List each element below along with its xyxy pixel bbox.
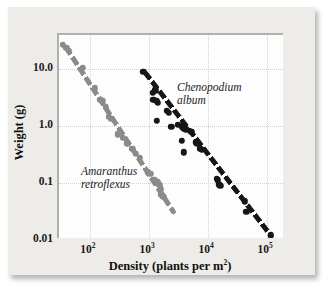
plot-area bbox=[59, 35, 283, 238]
data-point bbox=[165, 110, 171, 116]
series-label-chenopodium: Chenopodium album bbox=[177, 81, 242, 106]
gridline-vertical bbox=[90, 35, 91, 238]
data-point bbox=[168, 123, 174, 129]
gridline-vertical bbox=[208, 35, 209, 238]
y-axis-title: Weight (g) bbox=[12, 63, 27, 203]
data-point bbox=[154, 117, 160, 123]
plot-panel: Chenopodium album Amaranthus retroflexus bbox=[57, 33, 283, 238]
y-tick-label: 10.0 bbox=[33, 61, 53, 73]
data-point bbox=[79, 65, 85, 71]
y-tick-label: 0.1 bbox=[39, 175, 53, 187]
data-point bbox=[181, 149, 187, 155]
x-tick-label: 103 bbox=[139, 243, 154, 255]
y-tick-label: 0.01 bbox=[33, 232, 53, 244]
x-axis-ticks: 102103104105 bbox=[57, 243, 283, 259]
data-point bbox=[217, 182, 223, 188]
x-tick-label: 102 bbox=[80, 243, 95, 255]
gridline-horizontal bbox=[59, 69, 283, 70]
data-point bbox=[243, 209, 249, 215]
y-tick-label: 1.0 bbox=[39, 118, 53, 130]
gridline-vertical bbox=[267, 35, 268, 238]
figure-root: Chenopodium album Amaranthus retroflexus… bbox=[0, 0, 329, 293]
series-label-amaranthus: Amaranthus retroflexus bbox=[81, 165, 137, 190]
x-axis-title: Density (plants per m2) bbox=[57, 259, 283, 274]
data-point bbox=[154, 100, 160, 106]
gridline-vertical bbox=[149, 35, 150, 238]
x-tick-label: 104 bbox=[198, 243, 213, 255]
data-point bbox=[178, 137, 184, 143]
x-tick-label: 105 bbox=[258, 243, 273, 255]
data-point bbox=[268, 232, 274, 238]
